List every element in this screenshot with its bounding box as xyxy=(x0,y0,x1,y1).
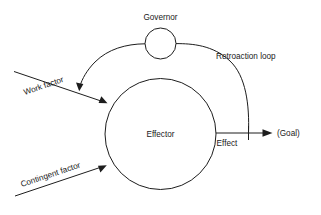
retroaction-loop-left-arc xyxy=(80,44,145,86)
retroaction-loop-label: Retroaction loop xyxy=(216,52,276,61)
goal-endpoint-label: (Goal) xyxy=(277,129,300,138)
effect-arrowhead xyxy=(263,129,273,137)
work-factor-arrowhead xyxy=(99,96,108,103)
contingent-factor-label: Contingent factor xyxy=(19,161,81,189)
diagram-canvas: Governor Effector Retroaction loop Work … xyxy=(0,0,321,215)
effector-node-label: Effector xyxy=(146,130,174,139)
contingent-factor-arrowhead xyxy=(98,165,107,172)
governor-node-circle xyxy=(145,28,176,59)
diagram-svg: Governor Effector Retroaction loop Work … xyxy=(0,0,321,215)
effect-label: Effect xyxy=(217,139,239,148)
work-factor-label: Work factor xyxy=(22,75,65,97)
governor-node-label: Governor xyxy=(143,13,177,22)
retroaction-loop-arrowhead xyxy=(76,83,83,92)
